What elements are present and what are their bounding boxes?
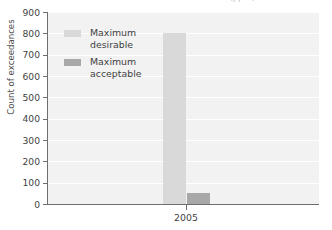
y-axis-tick-label: 500 [12, 93, 40, 102]
y-axis-tick-mark [43, 12, 47, 13]
bar [187, 193, 210, 204]
y-axis-tick-label: 200 [12, 157, 40, 166]
y-axis-tick-labels: 9008007006005004003002001000 [12, 0, 40, 230]
legend-label-line: Maximum [90, 27, 136, 39]
y-axis-tick-label: 900 [12, 8, 40, 17]
y-axis-tick-mark [43, 55, 47, 56]
chart-figure: SNP Year 2005 Nitrate Exceedances (ppm) … [0, 0, 332, 230]
y-axis-tick-mark [43, 161, 47, 162]
legend-entry[interactable]: Maximumdesirable [64, 27, 142, 50]
y-axis-tick-mark [43, 33, 47, 34]
x-axis-tick-mark [186, 205, 187, 210]
y-axis-tick-label: 0 [12, 200, 40, 209]
x-axis-tick-label: 2005 [156, 212, 216, 223]
y-axis-tick-mark [43, 140, 47, 141]
legend-label: Maximumacceptable [90, 56, 142, 79]
y-axis-tick-label: 800 [12, 29, 40, 38]
chart-title: SNP Year 2005 Nitrate Exceedances (ppm) [0, 0, 332, 2]
x-axis-spine [47, 204, 319, 205]
y-axis-tick-mark [43, 119, 47, 120]
y-axis-tick-label: 600 [12, 72, 40, 81]
legend-label: Maximumdesirable [90, 27, 136, 50]
gridline [48, 12, 319, 13]
legend-label-line: desirable [90, 39, 136, 51]
legend-entry[interactable]: Maximumacceptable [64, 56, 142, 79]
y-axis-tick-mark [43, 97, 47, 98]
legend-swatch [64, 30, 81, 37]
legend-swatch [64, 59, 81, 66]
y-axis-tick-label: 300 [12, 136, 40, 145]
y-axis-tick-label: 100 [12, 178, 40, 187]
y-axis-tick-mark [43, 204, 47, 205]
y-axis-tick-label: 700 [12, 50, 40, 59]
y-axis-tick-label: 400 [12, 114, 40, 123]
legend-label-line: acceptable [90, 68, 142, 80]
y-axis-tick-mark [43, 183, 47, 184]
chart-legend: MaximumdesirableMaximumacceptable [64, 27, 142, 85]
legend-label-line: Maximum [90, 56, 142, 68]
y-axis-tick-mark [43, 76, 47, 77]
bar [163, 33, 186, 204]
